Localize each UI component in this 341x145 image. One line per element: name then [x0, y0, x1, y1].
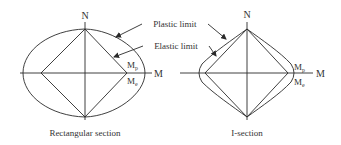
left-caption: Rectangular section [49, 128, 121, 138]
right-n-axis-label: N [243, 9, 250, 20]
interaction-diagram-figure: Plastic limit Elastic limit N M Mp Me Re… [0, 0, 341, 145]
right-caption: I-section [231, 128, 263, 138]
left-n-axis-label: N [81, 10, 88, 21]
plastic-limit-arrow-left [116, 24, 142, 37]
plastic-limit-arrow-right [208, 24, 226, 39]
rectangular-section-diagram [20, 22, 152, 120]
elastic-limit-label: Elastic limit [154, 41, 198, 51]
plastic-limit-label: Plastic limit [153, 19, 197, 29]
left-me-label: Me [127, 76, 138, 87]
left-mp-label: Mp [127, 60, 138, 71]
left-m-axis-label: M [154, 68, 163, 79]
right-m-axis-label: M [316, 68, 325, 79]
figure-canvas: Plastic limit Elastic limit N M Mp Me Re… [0, 0, 341, 145]
right-me-label: Me [294, 77, 305, 88]
right-mp-label: Mp [294, 62, 305, 73]
